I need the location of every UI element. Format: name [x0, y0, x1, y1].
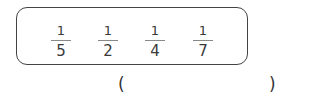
numerator: 1 — [49, 23, 73, 38]
answer-close-paren: ) — [269, 75, 276, 93]
fraction-1-5: 1 5 — [49, 23, 73, 59]
denominator: 7 — [191, 44, 215, 59]
denominator: 5 — [49, 44, 73, 59]
fraction-1-4: 1 4 — [143, 23, 167, 59]
fraction-bar — [145, 40, 165, 41]
denominator: 2 — [96, 44, 120, 59]
fraction-1-2: 1 2 — [96, 23, 120, 59]
numerator: 1 — [143, 23, 167, 38]
fraction-bar — [193, 40, 213, 41]
fraction-bar — [51, 40, 71, 41]
numerator: 1 — [191, 23, 215, 38]
denominator: 4 — [143, 44, 167, 59]
fraction-bar — [98, 40, 118, 41]
fraction-1-7: 1 7 — [191, 23, 215, 59]
numerator: 1 — [96, 23, 120, 38]
answer-open-paren: ( — [118, 75, 125, 93]
